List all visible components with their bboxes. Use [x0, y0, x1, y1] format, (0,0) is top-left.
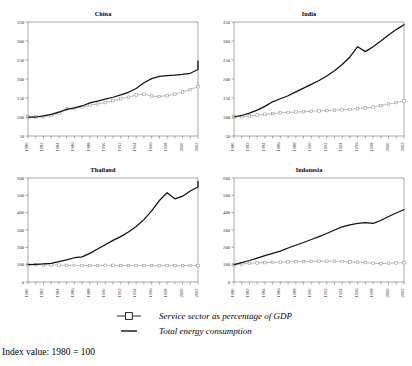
legend-label-energy: Total energy consumption: [145, 326, 252, 336]
svg-text:1988: 1988: [86, 288, 91, 298]
legend-marker-solid-line-icon: [113, 326, 145, 336]
svg-text:1986: 1986: [276, 142, 281, 152]
svg-text:1982: 1982: [245, 142, 250, 152]
panel-thailand: Thailand 0100200300400500600198019821984…: [0, 160, 206, 306]
legend-item-energy: Total energy consumption: [113, 323, 403, 338]
svg-text:2000: 2000: [385, 142, 390, 152]
svg-text:1982: 1982: [39, 142, 44, 152]
svg-text:2002: 2002: [194, 288, 199, 298]
svg-text:1988: 1988: [86, 142, 91, 152]
legend: Service sector as percentage of GDP Tota…: [113, 308, 403, 338]
svg-text:1980: 1980: [230, 142, 235, 152]
legend-label-service: Service sector as percentage of GDP: [145, 311, 292, 321]
svg-text:1984: 1984: [55, 288, 60, 298]
svg-text:1982: 1982: [39, 288, 44, 298]
svg-text:200: 200: [223, 245, 231, 250]
svg-text:1980: 1980: [24, 288, 29, 298]
svg-text:1990: 1990: [101, 288, 106, 298]
svg-text:1986: 1986: [70, 288, 75, 298]
svg-text:350: 350: [17, 20, 25, 25]
panel-india: India 5010015020025030035019801982198419…: [206, 4, 412, 160]
svg-text:0: 0: [22, 280, 25, 285]
svg-text:1992: 1992: [117, 288, 122, 298]
svg-text:1998: 1998: [369, 142, 374, 152]
svg-text:1996: 1996: [354, 142, 359, 152]
svg-text:1984: 1984: [55, 142, 60, 152]
svg-text:2000: 2000: [179, 142, 184, 152]
svg-text:1998: 1998: [163, 142, 168, 152]
chart-svg-indonesia: 0100200300400500600198019821984198619881…: [206, 172, 412, 306]
svg-text:150: 150: [17, 96, 25, 101]
legend-marker-open-square-icon: [113, 311, 145, 321]
svg-text:2002: 2002: [400, 142, 405, 152]
svg-text:100: 100: [223, 262, 231, 267]
svg-text:300: 300: [223, 39, 231, 44]
svg-text:0: 0: [228, 280, 231, 285]
svg-text:1980: 1980: [230, 288, 235, 298]
svg-text:1988: 1988: [292, 288, 297, 298]
svg-text:1994: 1994: [132, 142, 137, 152]
svg-text:400: 400: [17, 210, 25, 215]
svg-text:1998: 1998: [369, 288, 374, 298]
svg-text:100: 100: [17, 115, 25, 120]
svg-text:1992: 1992: [117, 142, 122, 152]
chart-svg-china: 5010015020025030035019801982198419861988…: [0, 16, 206, 160]
svg-text:100: 100: [17, 262, 25, 267]
svg-text:2000: 2000: [385, 288, 390, 298]
svg-text:200: 200: [17, 245, 25, 250]
svg-text:1994: 1994: [338, 142, 343, 152]
svg-text:2002: 2002: [400, 288, 405, 298]
svg-text:2000: 2000: [179, 288, 184, 298]
svg-text:600: 600: [17, 176, 25, 181]
svg-text:1980: 1980: [24, 142, 29, 152]
svg-text:1994: 1994: [338, 288, 343, 298]
svg-text:50: 50: [19, 134, 24, 139]
chart-svg-india: 5010015020025030035019801982198419861988…: [206, 16, 412, 160]
svg-text:1994: 1994: [132, 288, 137, 298]
svg-text:1990: 1990: [307, 288, 312, 298]
svg-text:250: 250: [223, 58, 231, 63]
svg-text:1996: 1996: [148, 288, 153, 298]
svg-text:1984: 1984: [261, 142, 266, 152]
svg-text:1986: 1986: [70, 142, 75, 152]
chart-svg-thailand: 0100200300400500600198019821984198619881…: [0, 172, 206, 306]
svg-text:400: 400: [223, 210, 231, 215]
index-caption: Index value: 1980 = 100: [2, 347, 95, 357]
svg-text:50: 50: [225, 134, 230, 139]
svg-text:1996: 1996: [354, 288, 359, 298]
svg-text:150: 150: [223, 96, 231, 101]
svg-text:100: 100: [223, 115, 231, 120]
svg-text:1986: 1986: [276, 288, 281, 298]
svg-text:350: 350: [223, 20, 231, 25]
svg-text:1990: 1990: [307, 142, 312, 152]
legend-item-service: Service sector as percentage of GDP: [113, 308, 403, 323]
panel-indonesia: Indonesia 010020030040050060019801982198…: [206, 160, 412, 306]
svg-text:200: 200: [17, 77, 25, 82]
panel-china: China 5010015020025030035019801982198419…: [0, 4, 206, 160]
svg-text:2002: 2002: [194, 142, 199, 152]
svg-text:1982: 1982: [245, 288, 250, 298]
svg-text:1988: 1988: [292, 142, 297, 152]
figure-container: China 5010015020025030035019801982198419…: [0, 0, 412, 366]
panel-grid: China 5010015020025030035019801982198419…: [0, 4, 412, 304]
svg-text:300: 300: [17, 228, 25, 233]
svg-text:300: 300: [17, 39, 25, 44]
svg-text:500: 500: [223, 193, 231, 198]
svg-text:1992: 1992: [323, 288, 328, 298]
svg-text:200: 200: [223, 77, 231, 82]
svg-text:500: 500: [17, 193, 25, 198]
svg-text:600: 600: [223, 176, 231, 181]
svg-text:1984: 1984: [261, 288, 266, 298]
svg-text:1998: 1998: [163, 288, 168, 298]
svg-text:1992: 1992: [323, 142, 328, 152]
svg-text:250: 250: [17, 58, 25, 63]
svg-text:1990: 1990: [101, 142, 106, 152]
svg-text:1996: 1996: [148, 142, 153, 152]
svg-text:300: 300: [223, 228, 231, 233]
